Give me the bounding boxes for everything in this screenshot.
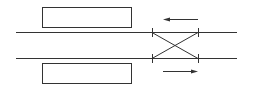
arrow-right-icon [163,70,198,74]
track-diagram [0,0,254,94]
lower-platform [43,64,132,84]
arrow-left-icon [163,18,198,22]
scissors-crossover [152,28,199,63]
upper-platform [43,8,132,28]
